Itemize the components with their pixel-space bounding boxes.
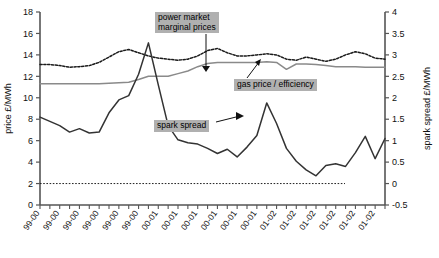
x-axis-label-group: 99-00 xyxy=(41,208,62,232)
x-axis-tick-label: 99-00 xyxy=(100,208,121,232)
right-axis-tick-label: 0 xyxy=(392,179,397,189)
left-axis-tick-label: 14 xyxy=(23,50,33,60)
left-axis-tick-label: 16 xyxy=(23,29,33,39)
leader-arrow-spark xyxy=(236,112,244,120)
x-axis-tick-label: 01-02 xyxy=(317,208,338,232)
x-axis-tick-label: 00-01 xyxy=(159,208,180,232)
x-axis-tick-label: 99-00 xyxy=(21,208,42,232)
x-axis-label-group: 00-01 xyxy=(179,208,200,232)
x-axis-tick-label: 00-01 xyxy=(238,208,259,232)
x-axis-label-group: 99-00 xyxy=(100,208,121,232)
x-axis-label-group: 00-01 xyxy=(139,208,160,232)
chart-container: 024681012141618-0.500.511.522.533.5499-0… xyxy=(0,0,439,258)
x-axis-tick-label: 00-01 xyxy=(139,208,160,232)
x-axis-label-group: 99-00 xyxy=(120,208,141,232)
right-axis-tick-label: 3.5 xyxy=(392,29,405,39)
x-axis-tick-label: 99-00 xyxy=(41,208,62,232)
leader-arrow-power xyxy=(202,66,210,72)
x-axis-label-group: 01-02 xyxy=(336,208,357,232)
x-axis-label-group: 01-02 xyxy=(297,208,318,232)
left-axis-tick-label: 2 xyxy=(28,179,33,189)
x-axis-tick-label: 01-02 xyxy=(336,208,357,232)
left-axis-tick-label: 8 xyxy=(28,114,33,124)
x-axis-label-group: 99-00 xyxy=(21,208,42,232)
right-axis-tick-label: 0.5 xyxy=(392,157,405,167)
x-axis-tick-label: 01-02 xyxy=(356,208,377,232)
right-axis-tick-label: 2.5 xyxy=(392,72,405,82)
right-axis-tick-label: 1.5 xyxy=(392,114,405,124)
right-axis-tick-label: 1 xyxy=(392,136,397,146)
left-axis-tick-label: 6 xyxy=(28,136,33,146)
left-axis-tick-label: 4 xyxy=(28,157,33,167)
left-axis-title: price £/MWh xyxy=(3,83,13,134)
x-axis-label-group: 00-01 xyxy=(218,208,239,232)
leader-line-gas xyxy=(247,62,259,78)
annotation-gas-price-efficiency: gas price / efficiency xyxy=(234,79,317,91)
annotation-spark-spread: spark spread xyxy=(154,120,209,132)
x-axis-tick-label: 01-02 xyxy=(277,208,298,232)
x-axis-label-group: 99-00 xyxy=(60,208,81,232)
right-axis-tick-label: 3 xyxy=(392,50,397,60)
x-axis-tick-label: 01-02 xyxy=(297,208,318,232)
left-axis-tick-label: 10 xyxy=(23,93,33,103)
x-axis-label-group: 00-01 xyxy=(198,208,219,232)
x-axis-tick-label: 00-01 xyxy=(179,208,200,232)
x-axis-tick-label: 99-00 xyxy=(120,208,141,232)
x-axis-tick-label: 00-01 xyxy=(198,208,219,232)
x-axis-tick-label: 99-00 xyxy=(80,208,101,232)
x-axis-label-group: 01-02 xyxy=(277,208,298,232)
series-line-power-market-marginal-prices xyxy=(40,48,385,67)
right-axis-tick-label: -0.5 xyxy=(392,200,408,210)
x-axis-label-group: 01-02 xyxy=(356,208,377,232)
left-axis-tick-label: 12 xyxy=(23,72,33,82)
x-axis-tick-label: 00-01 xyxy=(218,208,239,232)
x-axis-tick-label: 99-00 xyxy=(60,208,81,232)
chart-svg: 024681012141618-0.500.511.522.533.5499-0… xyxy=(0,0,439,258)
right-axis-tick-label: 4 xyxy=(392,7,397,17)
x-axis-label-group: 01-02 xyxy=(258,208,279,232)
x-axis-tick-label: 01-02 xyxy=(258,208,279,232)
right-axis-tick-label: 2 xyxy=(392,93,397,103)
x-axis-label-group: 00-01 xyxy=(238,208,259,232)
left-axis-tick-label: 18 xyxy=(23,7,33,17)
annotation-power-market-marginal-prices: power market marginal prices xyxy=(155,12,219,33)
x-axis-label-group: 01-02 xyxy=(317,208,338,232)
x-axis-label-group: 99-00 xyxy=(80,208,101,232)
x-axis-label-group: 00-01 xyxy=(159,208,180,232)
right-axis-title: spark spread £/MWh xyxy=(422,67,432,150)
